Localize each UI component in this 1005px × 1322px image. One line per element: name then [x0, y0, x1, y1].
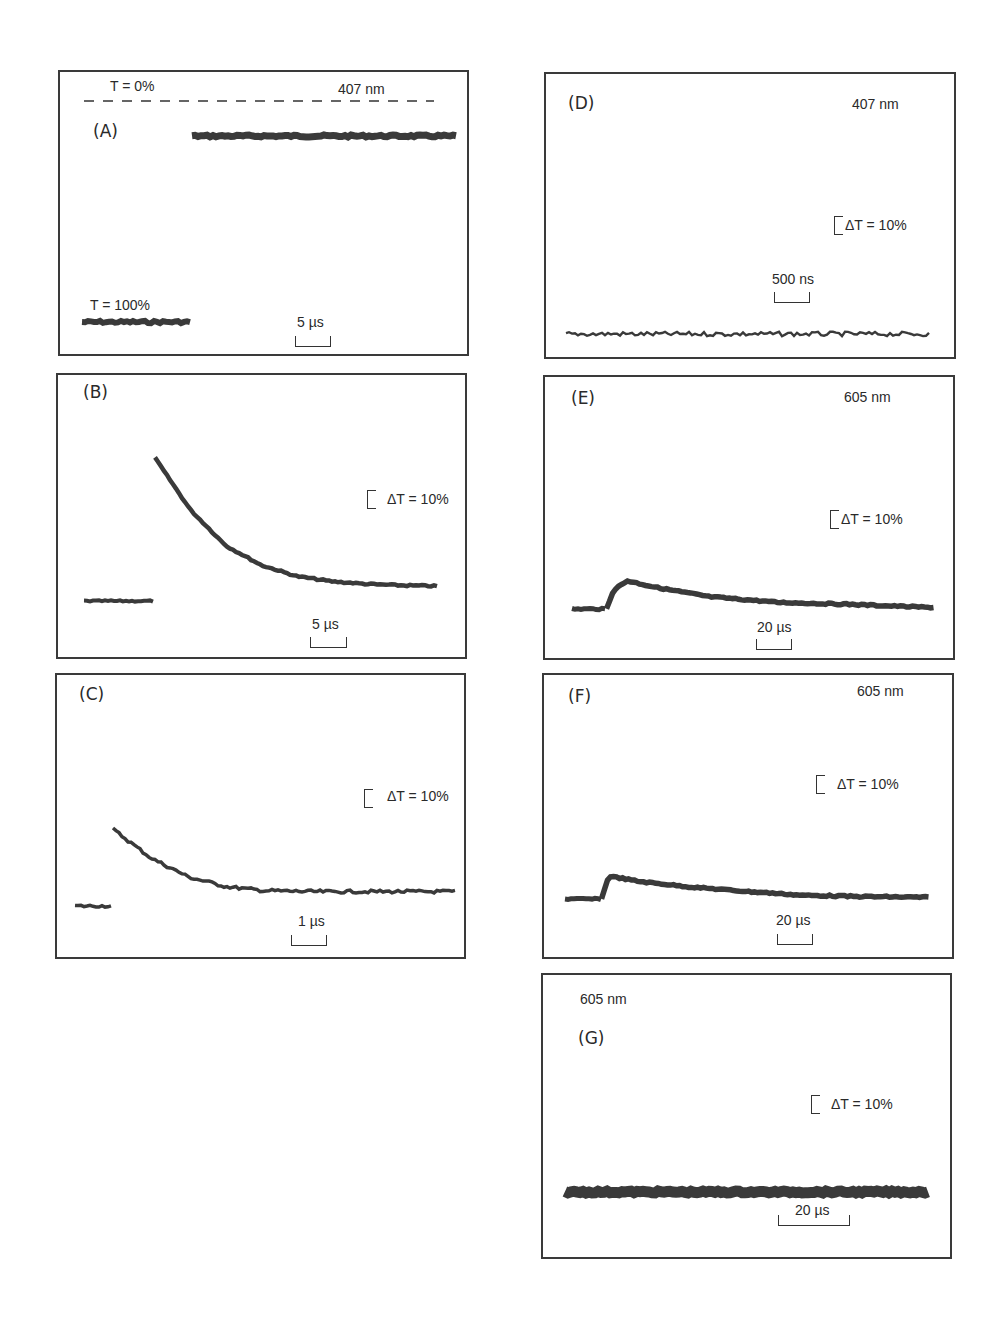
panel-c-traces [57, 675, 464, 957]
time-scale-label: 20 µs [757, 619, 792, 635]
trace-pre-flash [572, 608, 605, 609]
delta-t-label: ΔT = 10% [837, 776, 899, 792]
panel-label: (B) [83, 382, 108, 402]
time-scale-bar [310, 637, 347, 648]
panel-g: 605 nm (G) ΔT = 10% 20 µs [541, 973, 952, 1259]
panel-f-traces [544, 675, 952, 957]
time-scale-label: 500 ns [772, 271, 814, 287]
time-scale-label: 1 µs [298, 913, 325, 929]
time-scale-bar [774, 292, 810, 303]
t100-label: T = 100% [90, 297, 150, 313]
panel-d: (D) 407 nm ΔT = 10% 500 ns [544, 72, 956, 359]
time-scale-bar [756, 639, 792, 650]
trace-post-flash [192, 135, 456, 137]
trace-decay [602, 876, 929, 898]
panel-label: (D) [568, 93, 594, 113]
delta-t-label: ΔT = 10% [387, 788, 449, 804]
wavelength-label: 407 nm [852, 96, 899, 112]
delta-t-scale-bar [367, 490, 376, 509]
delta-t-label: ΔT = 10% [387, 491, 449, 507]
panel-label: (F) [568, 686, 591, 706]
delta-t-label: ΔT = 10% [831, 1096, 893, 1112]
time-scale-label: 20 µs [776, 912, 811, 928]
panel-label: (G) [578, 1028, 604, 1048]
trace-pre-flash [84, 600, 153, 601]
delta-t-scale-bar [830, 510, 839, 529]
wavelength-label: 605 nm [857, 683, 904, 699]
delta-t-scale-bar [364, 789, 373, 808]
trace-rise-decay [607, 581, 934, 609]
panel-c: (C) ΔT = 10% 1 µs [55, 673, 466, 959]
panel-e: (E) 605 nm ΔT = 10% 20 µs [543, 375, 955, 660]
panel-b: (B) ΔT = 10% 5 µs [56, 373, 467, 659]
time-scale-label: 5 µs [312, 616, 339, 632]
wavelength-label: 605 nm [844, 389, 891, 405]
time-scale-bar [295, 336, 331, 347]
wavelength-label: 407 nm [338, 81, 385, 97]
trace-flat-noise [566, 332, 929, 336]
trace-decay [155, 457, 437, 586]
panel-g-traces [543, 975, 950, 1257]
trace-flat [565, 1191, 928, 1193]
wavelength-label: 605 nm [580, 991, 627, 1007]
delta-t-scale-bar [816, 775, 825, 794]
panel-a: T = 0% 407 nm (A) T = 100% 5 µs [58, 70, 469, 356]
t0-label: T = 0% [110, 78, 155, 94]
delta-t-label: ΔT = 10% [845, 217, 907, 233]
time-scale-bar [777, 934, 813, 945]
panel-label: (A) [93, 121, 118, 141]
trace-decay [113, 828, 455, 893]
delta-t-scale-bar [834, 216, 843, 235]
trace-pre-flash [75, 905, 111, 907]
panel-label: (C) [79, 684, 104, 704]
panel-d-traces [546, 74, 954, 357]
time-scale-bar [291, 935, 327, 946]
time-scale-label: 5 µs [297, 314, 324, 330]
panel-b-traces [58, 375, 465, 657]
delta-t-scale-bar [811, 1095, 820, 1114]
trace-pre-flash [82, 321, 190, 323]
panel-label: (E) [571, 388, 595, 408]
trace-pre-flash [565, 898, 601, 899]
delta-t-label: ΔT = 10% [841, 511, 903, 527]
time-scale-bar [778, 1215, 850, 1226]
panel-f: (F) 605 nm ΔT = 10% 20 µs [542, 673, 954, 959]
